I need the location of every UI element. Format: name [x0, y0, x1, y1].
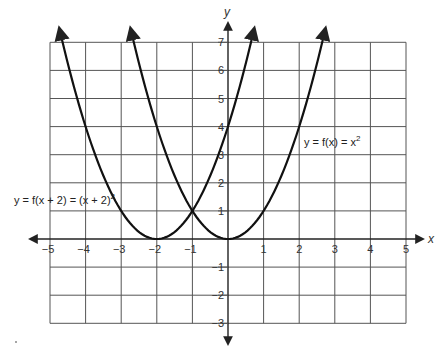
x-tick-label: −1	[184, 243, 197, 255]
x-tick-label: 1	[261, 243, 267, 255]
label-f-x-plus-2: y = f(x + 2) = (x + 2)2	[14, 192, 116, 206]
x-tick-label: −2	[149, 243, 162, 255]
y-tick-label: 6	[218, 64, 224, 76]
x-axis-label: x	[427, 232, 435, 246]
axes: xy	[30, 5, 435, 344]
y-tick-label: 2	[218, 177, 224, 189]
y-axis-label: y	[223, 5, 231, 19]
y-tick-label: −2	[211, 289, 224, 301]
x-tick-label: 3	[332, 243, 338, 255]
y-tick-label: −3	[211, 317, 224, 329]
y-tick-label: 4	[218, 121, 224, 133]
x-tick-label: 5	[403, 243, 409, 255]
y-tick-label: 5	[218, 93, 224, 105]
y-tick-label: −1	[211, 261, 224, 273]
x-tick-label: 4	[367, 243, 373, 255]
equation-labels: y = f(x) = x2y = f(x + 2) = (x + 2)2	[14, 134, 361, 206]
y-tick-label: 1	[218, 205, 224, 217]
x-tick-label: −3	[113, 243, 126, 255]
label-f-x: y = f(x) = x2	[304, 134, 361, 148]
scan-artifact-dot	[15, 341, 17, 343]
x-tick-label: 2	[296, 243, 302, 255]
coordinate-plane: xy −5−4−3−2−1123457654321−1−2−3 y = f(x)…	[0, 0, 446, 352]
x-tick-label: −4	[77, 243, 90, 255]
y-tick-label: 7	[218, 36, 224, 48]
x-tick-label: −5	[42, 243, 55, 255]
